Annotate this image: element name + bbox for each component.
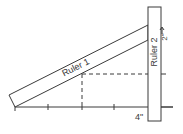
vertical-dimension-label: 2" [160, 33, 169, 40]
horizontal-dimension-label: 4" [135, 112, 143, 122]
ruler-diagram: Ruler 1 Ruler 2 2" 4" [0, 0, 183, 134]
ruler-2-label: Ruler 2 [149, 37, 159, 66]
